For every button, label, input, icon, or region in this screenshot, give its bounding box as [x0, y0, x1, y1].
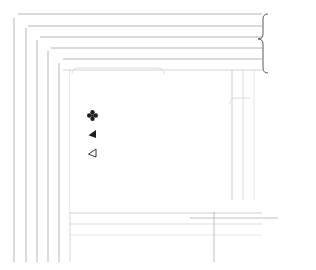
- bottom-inner-rows: [70, 213, 262, 235]
- left-border-rows: [14, 18, 70, 262]
- legend-item-colour-change: [84, 99, 206, 122]
- cut-yarn-icon: [84, 127, 100, 141]
- border-brace: [258, 14, 268, 73]
- top-border-rows: [18, 14, 262, 70]
- legend-item-cut-yarn: [84, 126, 206, 141]
- legend: [84, 99, 206, 164]
- right-inner-rows: [232, 70, 254, 200]
- attach-yarn-icon: [84, 146, 100, 160]
- four-petal-colour-change-icon: [84, 108, 100, 122]
- legend-item-attach-yarn: [84, 145, 206, 160]
- crochet-pattern-chart: [0, 0, 316, 270]
